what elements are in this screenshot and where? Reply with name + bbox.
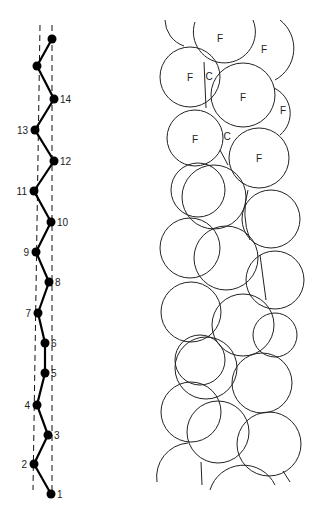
node-label: 1 — [57, 489, 63, 500]
node-dot — [31, 126, 40, 135]
node-label: 10 — [57, 217, 69, 228]
node-label: 14 — [60, 94, 72, 105]
node-label: 6 — [51, 338, 57, 349]
node-dot — [45, 278, 54, 287]
sphere-label-f: F — [192, 134, 198, 145]
sphere-label-f: F — [261, 44, 267, 55]
node-dot — [48, 35, 57, 44]
sphere-outline — [182, 165, 246, 229]
node-dot — [44, 431, 53, 440]
node-dot — [41, 339, 50, 348]
node-label: 11 — [17, 186, 28, 197]
node-dot — [30, 460, 39, 469]
node-dot — [47, 218, 56, 227]
sphere-model — [157, 20, 304, 490]
node-dot — [34, 309, 43, 318]
sphere-label-f: F — [187, 72, 193, 83]
node-label: 5 — [51, 368, 57, 379]
sphere-outline — [175, 337, 237, 399]
boundary-line — [204, 62, 206, 108]
backbone-chain — [34, 39, 54, 494]
node-dot — [41, 369, 50, 378]
helix-projection: 1413121110987654321 — [17, 25, 72, 500]
node-label: 2 — [21, 459, 27, 470]
sphere-outline — [161, 282, 221, 342]
cavity-label-c: C — [223, 131, 230, 142]
sphere-outline — [157, 443, 188, 482]
cavity-label-c: C — [205, 71, 212, 82]
node-label: 12 — [60, 156, 72, 167]
boundary-line — [260, 255, 266, 300]
sphere-outline — [161, 382, 221, 442]
sphere-outline — [242, 190, 300, 248]
node-label: 4 — [24, 400, 30, 411]
boundary-line — [283, 471, 290, 482]
node-dot — [50, 157, 59, 166]
sphere-outline — [194, 226, 258, 290]
node-label: 9 — [23, 247, 29, 258]
boundary-line — [201, 462, 202, 485]
sphere-outline — [210, 465, 275, 490]
sphere-outline — [246, 251, 304, 309]
sphere-outline — [193, 20, 255, 63]
node-dot — [32, 248, 41, 257]
boundary-line — [220, 150, 228, 165]
sphere-label-f: F — [217, 33, 223, 44]
node-label: 13 — [17, 125, 29, 136]
node-dot — [33, 62, 42, 71]
node-dot — [47, 490, 56, 499]
node-dot — [50, 95, 59, 104]
sphere-outline — [275, 20, 294, 80]
sphere-outline — [165, 20, 184, 46]
sphere-label-f: F — [240, 92, 246, 103]
sphere-outline — [232, 353, 292, 413]
sphere-label-f: F — [280, 105, 286, 116]
node-label: 8 — [55, 277, 61, 288]
node-label: 3 — [54, 430, 60, 441]
sphere-outline — [171, 163, 225, 217]
figure: 1413121110987654321 — [0, 0, 317, 511]
node-dot — [33, 401, 42, 410]
sphere-outline — [253, 313, 297, 357]
sphere-outline — [175, 335, 225, 385]
node-label: 7 — [25, 308, 31, 319]
node-dot — [30, 187, 39, 196]
sphere-outline — [160, 218, 220, 278]
sphere-label-f: F — [256, 153, 262, 164]
